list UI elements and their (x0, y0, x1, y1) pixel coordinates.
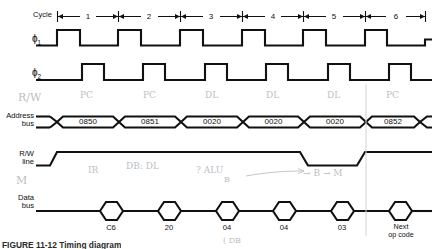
annotation-b-note: B (224, 175, 230, 184)
phi1-waveform (36, 30, 432, 46)
address-value-4: 0020 (249, 117, 298, 126)
cycle-number-1: 1 (78, 12, 98, 21)
annotation-pc-3: PC (386, 90, 399, 100)
cycle-number-2: 2 (139, 12, 159, 21)
figure-caption: FIGURE 11-12 Timing diagram (2, 240, 121, 249)
data-value-4: 04 (269, 223, 299, 232)
cycle-number-3: 3 (201, 12, 221, 21)
annotation-alu-note: ? ALU (196, 165, 223, 175)
next-opcode-line2: op code (378, 231, 424, 239)
annotation-db-paren-note: ( DB (223, 236, 241, 245)
address-bus-row-label: Address bus (0, 112, 34, 129)
annotation-b-to-m-note: → B → M (303, 168, 343, 178)
annotation-pc-1: PC (80, 90, 93, 100)
annotation-dl-1: DL (205, 90, 218, 100)
annotation-pc-2: PC (143, 90, 156, 100)
address-value-1: 0850 (63, 117, 113, 126)
phi2-waveform (36, 64, 432, 80)
timing-diagram-figure: Cycle ϕ1 ϕ2 Address bus R/W line Data bu… (0, 0, 434, 249)
data-value-2: 20 (154, 223, 184, 232)
data-bus-label-line2: bus (0, 202, 34, 210)
rw-line-row-label: R/W line (0, 150, 34, 167)
rw-line-waveform (36, 152, 432, 166)
data-value-next-opcode: Next op code (378, 223, 424, 240)
phi1-row-label: ϕ1 (32, 33, 41, 46)
address-value-5: 0020 (310, 117, 360, 126)
rw-line-label-line2: line (0, 158, 34, 166)
cycle-number-6: 6 (386, 12, 406, 21)
cycle-number-4: 4 (263, 12, 283, 21)
cycle-number-5: 5 (324, 12, 344, 21)
annotation-dl-2: DL (266, 90, 279, 100)
annotation-rw-note: R/W (18, 91, 41, 104)
data-value-1: C6 (96, 223, 126, 232)
data-value-3: 04 (212, 223, 242, 232)
pencil-strokes (246, 84, 366, 236)
data-bus-row-label: Data bus (0, 194, 34, 211)
annotation-ir-note: IR (88, 165, 98, 175)
data-bus-waveform (36, 202, 432, 220)
phi2-subscript: 2 (38, 73, 42, 80)
phi2-row-label: ϕ2 (32, 67, 41, 80)
address-value-6: 0852 (370, 117, 416, 126)
address-value-2: 0851 (125, 117, 175, 126)
annotation-m-note: M (16, 174, 27, 187)
cycle-row-label: Cycle (0, 11, 52, 20)
annotation-dl-3: DL (327, 90, 340, 100)
data-value-5: 03 (327, 223, 357, 232)
phi1-subscript: 1 (38, 39, 42, 46)
address-value-3: 0020 (187, 117, 237, 126)
address-bus-label-line2: bus (0, 120, 34, 128)
annotation-db-dl-note: DB: DL (126, 161, 159, 171)
cycle-arrows (58, 14, 425, 19)
